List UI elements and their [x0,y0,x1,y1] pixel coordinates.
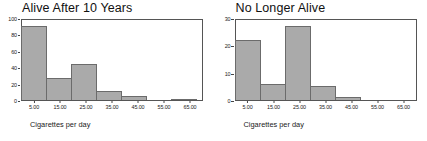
bar [260,84,286,100]
y-axis-tick-label: 40 [11,65,17,71]
x-axis-tick-label: 5.00 [242,104,252,110]
bar [46,78,72,100]
x-axis-tick-mark [299,101,300,103]
bar [171,99,197,100]
x-axis-tick: 15.00 [54,101,67,110]
x-axis-tick-mark [86,101,87,103]
x-axis-tick-mark [164,101,165,103]
x-axis-tick: 45.00 [345,101,358,110]
x-axis-tick: 25.00 [293,101,306,110]
histogram-figure: Alive After 10 Years 020406080100 5.0015… [0,0,427,141]
x-axis-tick-label: 45.00 [132,104,145,110]
bar [71,64,97,100]
y-axis-tick-label: 20 [225,43,231,49]
x-axis-tick: 65.00 [184,101,197,110]
x-axis-tick-label: 45.00 [345,104,358,110]
y-axis-alive: 020406080100 [0,19,20,101]
y-axis-tick-mark [231,19,234,20]
x-axis-tick-label: 55.00 [371,104,384,110]
x-axis-label: Cigarettes per day [244,120,304,129]
y-axis-tick-mark [18,19,21,20]
page-title: No Longer Alive [236,1,326,15]
x-axis-tick-label: 35.00 [106,104,119,110]
x-axis-tick: 35.00 [106,101,119,110]
x-axis-tick-label: 5.00 [29,104,39,110]
bar [96,91,122,100]
y-axis-tick-mark [18,68,21,69]
page-title: Alive After 10 Years [22,1,132,15]
y-axis-tick-label: 10 [225,71,231,77]
y-axis-tick-label: 20 [11,82,17,88]
bar-series-no-longer-alive [236,20,416,100]
x-axis-no-longer-alive: 5.0015.0025.0035.0045.0055.0065.00 [235,101,417,115]
y-axis-tick-label: 100 [8,16,17,22]
bar [335,97,361,100]
y-axis-tick-mark [231,101,234,102]
bar [235,40,261,100]
x-axis-label: Cigarettes per day [30,120,90,129]
bar [285,26,311,100]
x-axis-tick: 5.00 [242,101,252,110]
x-axis-tick-label: 65.00 [397,104,410,110]
x-axis-tick-mark [60,101,61,103]
bar [21,26,47,100]
chart-panel-alive-after-10-years: Alive After 10 Years 020406080100 5.0015… [0,0,214,141]
x-axis-tick-mark [377,101,378,103]
x-axis-tick-label: 65.00 [184,104,197,110]
y-axis-tick-mark [18,52,21,53]
y-axis-tick-mark [18,35,21,36]
x-axis-tick-label: 55.00 [158,104,171,110]
bar-series-alive [22,20,202,100]
y-axis-tick-label: 30 [225,16,231,22]
x-axis-tick: 15.00 [267,101,280,110]
y-axis-tick-label: 80 [11,32,17,38]
x-axis-tick-mark [190,101,191,103]
y-axis-tick-mark [231,74,234,75]
x-axis-tick-label: 25.00 [80,104,93,110]
x-axis-tick: 55.00 [158,101,171,110]
x-axis-tick: 65.00 [397,101,410,110]
x-axis-tick-mark [351,101,352,103]
x-axis-tick-mark [112,101,113,103]
y-axis-no-longer-alive: 0102030 [214,19,234,101]
x-axis-tick: 5.00 [29,101,39,110]
x-axis-tick-label: 15.00 [267,104,280,110]
x-axis-tick-mark [273,101,274,103]
x-axis-tick: 45.00 [132,101,145,110]
x-axis-alive: 5.0015.0025.0035.0045.0055.0065.00 [21,101,203,115]
chart-panel-no-longer-alive: No Longer Alive 0102030 5.0015.0025.0035… [214,0,427,141]
x-axis-tick: 25.00 [80,101,93,110]
x-axis-tick: 35.00 [319,101,332,110]
x-axis-tick-mark [138,101,139,103]
plot-area-alive [21,19,203,101]
y-axis-tick-mark [231,46,234,47]
x-axis-tick-mark [325,101,326,103]
x-axis-tick-mark [403,101,404,103]
y-axis-tick-mark [18,85,21,86]
x-axis-tick-label: 25.00 [293,104,306,110]
x-axis-tick-mark [34,101,35,103]
bar [310,86,336,100]
y-axis-tick-label: 60 [11,49,17,55]
x-axis-tick: 55.00 [371,101,384,110]
bar [121,96,147,100]
x-axis-tick-label: 15.00 [54,104,67,110]
y-axis-tick-mark [18,101,21,102]
x-axis-tick-label: 35.00 [319,104,332,110]
plot-area-no-longer-alive [235,19,417,101]
x-axis-tick-mark [247,101,248,103]
